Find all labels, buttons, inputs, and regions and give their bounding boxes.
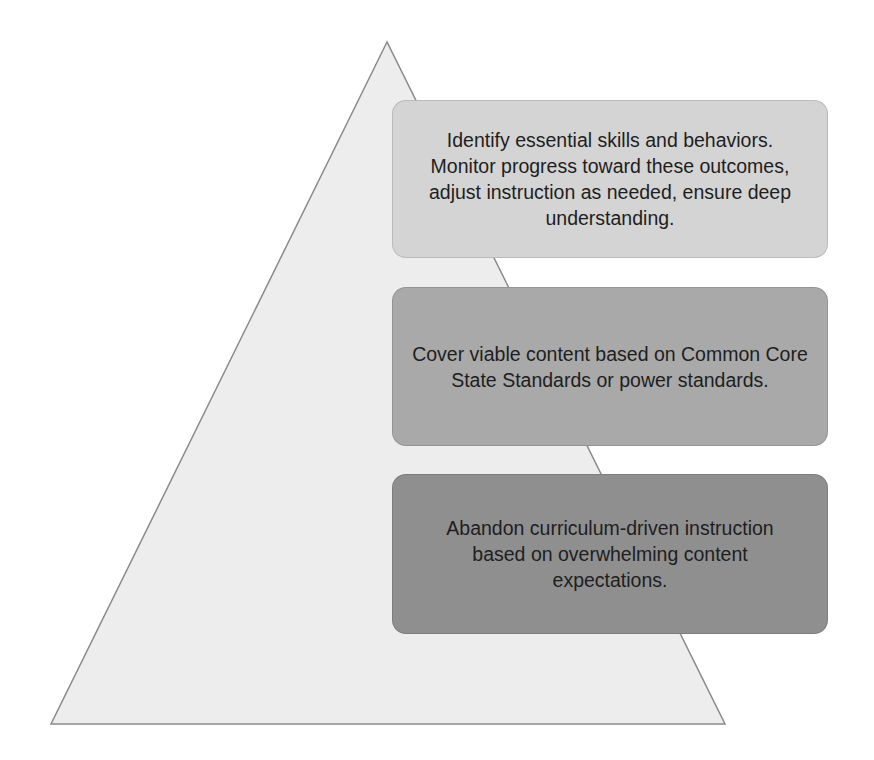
pyramid-level-top: Identify essential skills and behaviors.… <box>392 100 828 258</box>
pyramid-level-middle: Cover viable content based on Common Cor… <box>392 287 828 446</box>
level-top-text: Identify essential skills and behaviors.… <box>425 127 795 231</box>
level-bottom-text: Abandon curriculum-driven instruction ba… <box>430 515 790 593</box>
pyramid-level-bottom: Abandon curriculum-driven instruction ba… <box>392 474 828 634</box>
level-middle-text: Cover viable content based on Common Cor… <box>403 341 817 393</box>
